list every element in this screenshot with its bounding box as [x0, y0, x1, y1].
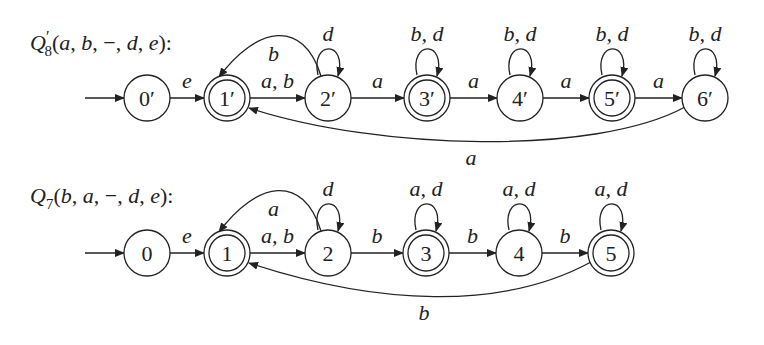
state-4: 4 — [496, 230, 542, 276]
self-loop — [509, 49, 532, 76]
self-loop-label: a, d — [410, 176, 444, 201]
self-loop-label: a, d — [595, 176, 629, 201]
automaton-q8-prime: Q′8(a, b, −, d, e):ea, baaaabadb, db, db… — [30, 21, 728, 170]
state-label: 1 — [222, 241, 233, 266]
state-label: 4′ — [512, 86, 528, 111]
state-5-prime: 5′ — [589, 75, 635, 121]
automata-diagram: Q′8(a, b, −, d, e):ea, baaaabadb, db, db… — [0, 0, 764, 345]
state-2: 2 — [305, 230, 351, 276]
transition-label: a, b — [261, 68, 294, 93]
state-3-prime: 3′ — [404, 75, 450, 121]
transition-label: a — [468, 68, 479, 93]
automaton-title: Q′8(a, b, −, d, e): — [30, 28, 172, 59]
transition-label: b — [467, 223, 478, 248]
state-1-prime: 1′ — [204, 75, 250, 121]
self-loop — [601, 49, 624, 76]
self-loop — [600, 204, 623, 231]
state-0-prime: 0′ — [124, 75, 170, 121]
self-loop-label: d — [323, 21, 335, 46]
self-loop-label: b, d — [596, 21, 630, 46]
automaton-q7: Q7(b, a, −, d, e):ea, bbbbabda, da, da, … — [30, 176, 634, 325]
self-loop-label: b, d — [504, 21, 538, 46]
state-label: 1′ — [219, 86, 235, 111]
automaton-title: Q7(b, a, −, d, e): — [30, 183, 173, 212]
transition-label: a — [653, 68, 664, 93]
self-loop-label: b, d — [411, 21, 445, 46]
self-loop-label: b, d — [689, 21, 723, 46]
transition-label: a — [372, 68, 383, 93]
state-4-prime: 4′ — [497, 75, 543, 121]
state-label: 0 — [142, 241, 153, 266]
state-label: 3′ — [419, 86, 435, 111]
state-label: 3 — [421, 241, 432, 266]
self-loop-label: a, d — [503, 176, 537, 201]
state-label: 2′ — [320, 86, 336, 111]
state-label: 5′ — [604, 86, 620, 111]
transition-label: a — [561, 68, 572, 93]
transition-label: e — [182, 68, 192, 93]
back-arc-long-label: b — [419, 300, 430, 325]
state-6-prime: 6′ — [682, 75, 728, 121]
self-loop-label: d — [323, 176, 335, 201]
self-loop — [415, 204, 438, 231]
back-arc-short-label: b — [268, 41, 279, 66]
transition-label: e — [182, 223, 192, 248]
state-0: 0 — [124, 230, 170, 276]
state-label: 0′ — [139, 86, 155, 111]
back-arc-long-label: a — [466, 145, 477, 170]
state-3: 3 — [403, 230, 449, 276]
back-arc-short-label: a — [268, 196, 279, 221]
state-2-prime: 2′ — [305, 75, 351, 121]
state-1: 1 — [204, 230, 250, 276]
self-loop — [416, 49, 439, 76]
transition-label: b — [560, 223, 571, 248]
state-label: 6′ — [697, 86, 713, 111]
state-label: 2 — [323, 241, 334, 266]
transition-label: b — [372, 223, 383, 248]
state-5: 5 — [588, 230, 634, 276]
state-label: 4 — [514, 241, 525, 266]
transition-label: a, b — [261, 223, 294, 248]
self-loop — [508, 204, 531, 231]
state-label: 5 — [606, 241, 617, 266]
self-loop — [694, 49, 717, 76]
